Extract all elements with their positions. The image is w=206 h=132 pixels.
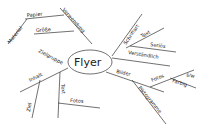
label-material: Material	[6, 25, 23, 45]
label-farbig: Farbig	[171, 77, 188, 88]
label-verwendung: Verwendung	[61, 7, 87, 35]
label-sw: s/w	[186, 71, 196, 79]
label-verstaendlich: Verständlich	[128, 49, 159, 60]
label-piktogramme: Piktogramme	[136, 85, 163, 115]
label-text-left: Text	[60, 83, 67, 95]
label-ziel: Ziel	[25, 102, 33, 112]
branch-verstaendlich	[112, 58, 170, 66]
label-serioes: Seriös	[150, 41, 166, 49]
mindmap-canvas: Flyer Verwendung Papier Material Größe Z…	[0, 0, 206, 132]
label-inhalt: Inhalt	[28, 71, 43, 83]
label-groesse: Größe	[36, 26, 51, 33]
branch-fotos-left	[58, 103, 100, 108]
label-bilder: Bilder	[116, 68, 132, 77]
center-label: Flyer	[74, 56, 102, 69]
label-zielgruppe: Zielgruppe	[37, 48, 64, 67]
label-fotos-left: Fotos	[70, 97, 84, 104]
branch-text-left	[58, 72, 60, 118]
label-fotos-right: Fotos	[150, 72, 165, 83]
